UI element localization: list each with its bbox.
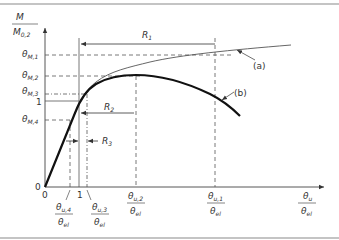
x-tick-theta-u2: θu,2 θel — [127, 191, 145, 217]
x-axis-label: θu θel — [298, 191, 316, 217]
y-tick-theta-m2: θM,2 — [22, 70, 39, 81]
svg-text:θu: θu — [303, 191, 313, 202]
svg-text:θu,3: θu,3 — [92, 202, 107, 213]
theta-u4-leader — [66, 190, 70, 200]
curve-b-label: (b) — [234, 88, 247, 98]
x-origin-label: 0 — [42, 190, 48, 200]
y-tick-labels: θM,1 θM,2 θM,3 1 θM,4 0 — [22, 49, 42, 192]
x-tick-theta-u4: θu,4 θel — [55, 202, 73, 228]
vertical-reference-lines — [70, 38, 215, 187]
y-label-denominator: M0,2 — [13, 27, 30, 38]
y-label-numerator: M — [16, 12, 24, 22]
curve-a-label: (a) — [253, 61, 266, 71]
r1-label: R1 — [142, 30, 152, 41]
svg-text:θu,1: θu,1 — [208, 191, 223, 202]
x-tick-one: 1 — [77, 190, 83, 200]
r3-label: R3 — [102, 136, 112, 147]
svg-text:θel: θel — [301, 206, 312, 217]
theta-u3-leader — [87, 190, 91, 200]
curve-b — [45, 75, 240, 187]
y-tick-theta-m3: θM,3 — [22, 86, 39, 97]
svg-text:θu,2: θu,2 — [128, 191, 143, 202]
svg-text:θel: θel — [58, 217, 69, 228]
y-tick-theta-m4: θM,4 — [22, 114, 39, 125]
svg-text:θu,4: θu,4 — [56, 202, 71, 213]
y-tick-theta-m1: θM,1 — [22, 49, 38, 60]
range-arrows — [66, 44, 215, 141]
curve-a-leader — [237, 50, 255, 60]
x-tick-theta-u3: θu,3 θel — [91, 202, 109, 228]
y-axis-label: M M0,2 — [12, 12, 38, 38]
y-tick-one: 1 — [36, 97, 42, 107]
curve-b-leader — [222, 92, 234, 100]
moment-rotation-diagram: M M0,2 θM,1 θM,2 θM,3 1 θM,4 0 0 1 θu,4 … — [0, 0, 339, 240]
x-tick-theta-u1: θu,1 θel — [207, 191, 225, 217]
r2-label: R2 — [104, 102, 114, 113]
svg-text:θel: θel — [210, 206, 221, 217]
svg-text:θel: θel — [130, 206, 141, 217]
svg-text:θel: θel — [94, 217, 105, 228]
y-origin-label: 0 — [35, 182, 41, 192]
